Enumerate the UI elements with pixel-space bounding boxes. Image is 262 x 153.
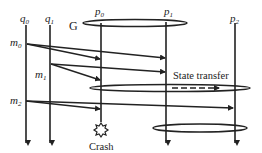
- message-m1-to-p1: [51, 64, 165, 72]
- group-label: G: [69, 19, 78, 33]
- view-ellipse-state-transfer: [90, 85, 250, 92]
- crash-label: Crash: [89, 141, 114, 152]
- message-m0-to-p1: [27, 44, 165, 58]
- message-label-m1: m1: [35, 68, 46, 82]
- view-ellipse-final: [153, 124, 247, 132]
- process-label-q0: q0: [20, 12, 30, 26]
- crash-icon: [94, 123, 108, 137]
- view-ellipse-initial: [83, 20, 187, 27]
- process-label-p0: p0: [94, 5, 105, 19]
- state-transfer-label: State transfer: [173, 70, 229, 81]
- group-membership-diagram: q0 q1 p0 p1 p2 G m0 m1 m2 State transfer: [0, 0, 262, 153]
- message-label-m0: m0: [10, 36, 22, 50]
- message-m0-to-p0: [27, 44, 100, 59]
- message-label-m2: m2: [10, 94, 22, 108]
- process-label-p1: p1: [163, 5, 173, 19]
- process-label-q1: q1: [45, 12, 54, 26]
